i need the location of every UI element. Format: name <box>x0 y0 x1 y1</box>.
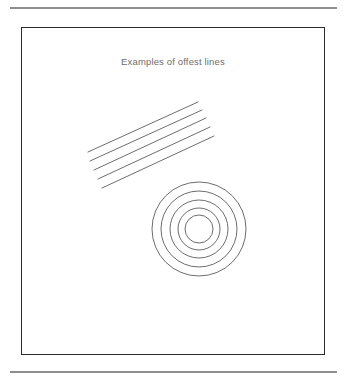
offset-line-1 <box>88 102 198 152</box>
bottom-horizontal-rule <box>10 371 337 373</box>
figure-page: Examples of offest lines <box>0 0 345 378</box>
offset-line-2 <box>90 110 202 161</box>
offset-lines-group <box>88 102 214 188</box>
offset-circle-3 <box>170 200 228 258</box>
offset-geometry-drawing <box>22 28 324 354</box>
offset-circle-2 <box>161 191 237 267</box>
offset-line-4 <box>98 127 210 179</box>
offset-circles-group <box>152 182 246 276</box>
offset-circle-4 <box>178 208 220 250</box>
offset-circle-1 <box>152 182 246 276</box>
offset-line-5 <box>102 136 214 188</box>
figure-frame: Examples of offest lines <box>21 27 325 355</box>
offset-line-3 <box>94 118 206 170</box>
top-horizontal-rule <box>10 7 337 9</box>
offset-circle-5 <box>185 215 213 243</box>
